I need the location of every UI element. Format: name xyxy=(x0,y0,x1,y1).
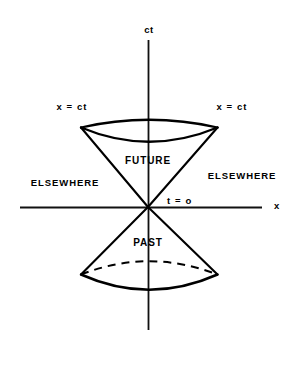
asymptote-label-right: x = ct xyxy=(216,102,247,112)
region-label-elsewhere-left: ELSEWHERE xyxy=(31,178,99,188)
lightcone-diagram: ct x t = o x = ct x = ct FUTURE PAST ELS… xyxy=(0,0,295,366)
origin-time-label: t = o xyxy=(167,196,192,206)
asymptote-label-left: x = ct xyxy=(56,102,87,112)
region-label-elsewhere-right: ELSEWHERE xyxy=(208,171,276,181)
x-axis-label: x xyxy=(274,201,280,211)
region-label-future: FUTURE xyxy=(125,156,171,166)
ct-axis-label: ct xyxy=(144,25,154,35)
region-label-past: PAST xyxy=(133,238,163,248)
future-cone-left-generator xyxy=(81,128,148,208)
